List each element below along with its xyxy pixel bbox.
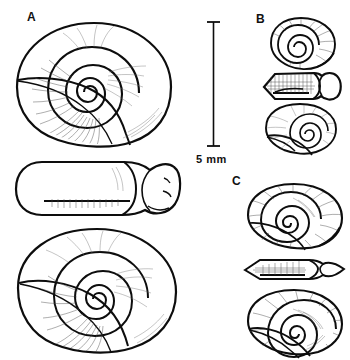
panel-c-apertural-view: [243, 256, 347, 284]
panel-a-umbilical-view: [8, 226, 186, 358]
figure-plate: A: [0, 0, 350, 360]
scale-bar: [200, 16, 228, 156]
panel-label-c: C: [232, 175, 241, 187]
panel-c-apical-view: [243, 182, 347, 252]
panel-b-apical-view: [268, 16, 344, 72]
panel-a-apical-view: [8, 14, 180, 154]
panel-b-umbilical-view: [262, 102, 346, 156]
scale-bar-label: 5 mm: [196, 153, 227, 165]
panel-b-apertural-view: [259, 68, 345, 104]
panel-c-umbilical-view: [243, 288, 347, 358]
panel-a-apertural-view: [12, 158, 184, 220]
panel-label-b: B: [256, 13, 265, 25]
